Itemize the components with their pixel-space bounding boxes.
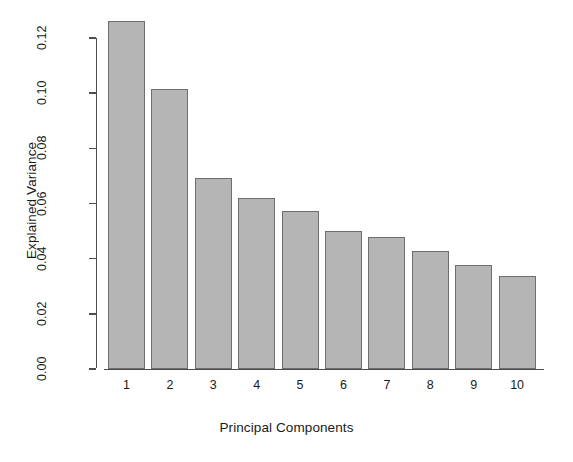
x-axis-tick-label: 2 <box>148 378 192 392</box>
bar <box>325 231 362 369</box>
bar <box>455 265 492 369</box>
bar <box>368 237 405 369</box>
x-axis-tick-label: 4 <box>235 378 279 392</box>
bar <box>282 211 319 369</box>
x-axis-title: Principal Components <box>0 420 573 435</box>
bar <box>412 251 449 369</box>
bar <box>151 89 188 369</box>
x-axis-tick-label: 8 <box>408 378 452 392</box>
plot-area <box>0 0 573 462</box>
x-axis-line <box>104 369 544 370</box>
bar <box>499 276 536 369</box>
x-axis-tick-label: 9 <box>452 378 496 392</box>
x-axis-tick-label: 5 <box>278 378 322 392</box>
bar <box>238 198 275 369</box>
x-axis-tick-label: 10 <box>495 378 539 392</box>
x-axis-tick-label: 3 <box>191 378 235 392</box>
x-axis-tick-label: 6 <box>322 378 366 392</box>
x-axis-tick-label: 7 <box>365 378 409 392</box>
x-axis-tick-label: 1 <box>105 378 149 392</box>
bar <box>108 21 145 369</box>
bar <box>195 178 232 369</box>
scree-plot-figure: Explained Variance 0.000.020.040.060.080… <box>0 0 573 462</box>
